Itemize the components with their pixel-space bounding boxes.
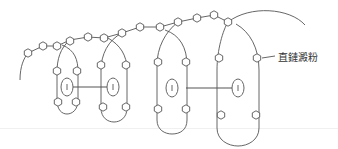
amylose-helix-diagram (0, 0, 338, 149)
amylose-label: 直鏈澱粉 (278, 49, 318, 64)
label-leader-line (262, 56, 275, 58)
helix-strand (20, 11, 305, 146)
